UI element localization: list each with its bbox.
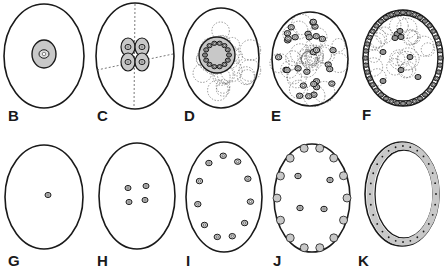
embryo-panel-c xyxy=(96,3,174,109)
embryo-panel-h xyxy=(99,143,175,249)
embryo-panel-g xyxy=(5,145,83,249)
embryo-panel-b xyxy=(4,4,84,108)
panel-label-c: C xyxy=(97,108,108,123)
embryo-panel-f xyxy=(363,10,443,106)
panel-label-i: I xyxy=(186,253,190,268)
embryo-cleavage-diagram: B C D E F G H I J K xyxy=(0,0,448,269)
panel-label-b: B xyxy=(8,108,19,123)
panel-label-h: H xyxy=(97,253,108,268)
panel-label-j: J xyxy=(273,253,281,268)
embryo-panel-d xyxy=(183,8,261,108)
embryo-panel-k xyxy=(365,142,439,246)
embryo-panel-j xyxy=(273,144,351,252)
embryo-panel-i xyxy=(186,142,262,252)
panel-label-e: E xyxy=(271,108,281,123)
embryo-panel-e xyxy=(270,12,349,107)
panel-label-k: K xyxy=(358,253,369,268)
panel-label-g: G xyxy=(8,253,20,268)
panel-label-f: F xyxy=(362,107,371,122)
diagram-canvas xyxy=(0,0,448,269)
panel-label-d: D xyxy=(184,108,195,123)
